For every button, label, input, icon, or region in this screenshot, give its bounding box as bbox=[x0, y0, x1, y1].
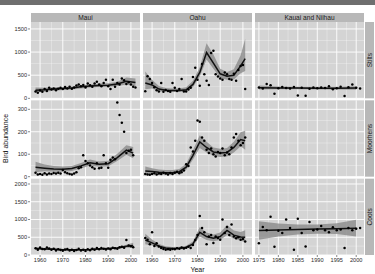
panel-stilts-oahu bbox=[143, 22, 252, 98]
data-point bbox=[116, 101, 119, 104]
data-point bbox=[343, 247, 346, 250]
x-axis-tick-label: 2000 bbox=[237, 257, 249, 263]
data-point bbox=[89, 84, 92, 87]
panel-stilts-maui bbox=[31, 22, 140, 98]
column-strip-label-oahu: Oahu bbox=[189, 14, 205, 21]
data-point bbox=[258, 242, 261, 245]
data-point bbox=[164, 248, 167, 251]
data-point bbox=[105, 248, 108, 251]
data-point bbox=[149, 174, 152, 177]
data-point bbox=[155, 173, 158, 176]
data-point bbox=[144, 237, 147, 240]
data-point bbox=[43, 172, 46, 175]
x-axis-tick-label: 1980 bbox=[79, 257, 91, 263]
panel-stilts-kauai-and-niihau bbox=[255, 22, 364, 98]
data-point bbox=[178, 248, 181, 251]
data-point bbox=[39, 173, 42, 176]
data-point bbox=[221, 218, 224, 221]
data-point bbox=[50, 248, 53, 251]
data-point bbox=[66, 248, 69, 251]
data-point bbox=[87, 82, 90, 85]
data-point bbox=[201, 63, 204, 66]
data-point bbox=[208, 152, 211, 155]
x-axis-tick-label: 1970 bbox=[169, 257, 181, 263]
column-strip-label-maui: Maui bbox=[78, 14, 93, 21]
data-point bbox=[73, 172, 76, 175]
data-point bbox=[64, 171, 67, 174]
data-point bbox=[269, 84, 272, 87]
data-point bbox=[183, 247, 186, 250]
data-point bbox=[297, 94, 300, 97]
data-point bbox=[237, 236, 240, 239]
data-point bbox=[265, 229, 268, 232]
data-point bbox=[304, 95, 307, 98]
data-point bbox=[187, 165, 190, 168]
data-point bbox=[224, 71, 227, 74]
data-point bbox=[281, 232, 284, 235]
data-point bbox=[355, 86, 358, 89]
data-point bbox=[221, 147, 224, 150]
data-point bbox=[55, 89, 58, 92]
data-point bbox=[304, 245, 307, 248]
data-point bbox=[91, 86, 94, 89]
data-point bbox=[217, 151, 220, 154]
data-point bbox=[160, 173, 163, 176]
data-point bbox=[102, 82, 105, 85]
data-point bbox=[55, 249, 58, 252]
data-point bbox=[80, 249, 83, 252]
data-point bbox=[132, 154, 135, 157]
data-point bbox=[160, 247, 163, 250]
data-point bbox=[80, 166, 83, 169]
data-point bbox=[91, 166, 94, 169]
data-point bbox=[68, 249, 71, 252]
data-point bbox=[269, 215, 272, 218]
data-point bbox=[73, 250, 76, 253]
data-point bbox=[82, 84, 85, 87]
data-point bbox=[34, 90, 37, 93]
data-point bbox=[87, 162, 90, 165]
data-point bbox=[237, 69, 240, 72]
data-point bbox=[324, 229, 327, 232]
data-point bbox=[114, 158, 117, 161]
y-axis-tick-label: 1000 bbox=[15, 216, 27, 222]
data-point bbox=[169, 172, 172, 175]
data-point bbox=[210, 52, 213, 55]
y-axis-tick-label: 2000 bbox=[15, 181, 27, 187]
data-point bbox=[84, 86, 87, 89]
data-point bbox=[39, 89, 42, 92]
y-axis-tick-label: 500 bbox=[18, 72, 27, 78]
data-point bbox=[339, 86, 342, 89]
data-point bbox=[289, 227, 292, 230]
data-point bbox=[114, 247, 117, 250]
data-point bbox=[109, 159, 112, 162]
data-point bbox=[158, 172, 161, 175]
data-point bbox=[300, 86, 303, 89]
data-point bbox=[230, 79, 233, 82]
row-strip-label-coots: Coots bbox=[366, 208, 373, 226]
data-point bbox=[105, 162, 108, 165]
x-axis-tick-label: 2000 bbox=[350, 257, 362, 263]
data-point bbox=[233, 235, 236, 238]
data-point bbox=[167, 90, 170, 93]
data-point bbox=[50, 88, 53, 91]
y-axis-tick-label: 100 bbox=[18, 151, 27, 157]
data-point bbox=[46, 246, 49, 249]
data-point bbox=[153, 245, 156, 248]
data-point bbox=[75, 171, 78, 174]
data-point bbox=[228, 234, 231, 237]
data-point bbox=[149, 243, 152, 246]
data-point bbox=[107, 85, 110, 88]
data-point bbox=[328, 231, 331, 234]
data-point bbox=[192, 244, 195, 247]
data-point bbox=[258, 86, 261, 89]
data-point bbox=[34, 171, 37, 174]
data-point bbox=[174, 171, 177, 174]
data-point bbox=[212, 49, 215, 52]
data-point bbox=[155, 242, 158, 245]
data-point bbox=[130, 83, 133, 86]
data-point bbox=[80, 85, 83, 88]
y-axis-tick-label: 300 bbox=[18, 106, 27, 112]
data-point bbox=[242, 142, 245, 145]
data-point bbox=[158, 245, 161, 248]
y-axis-tick-label: 500 bbox=[18, 234, 27, 240]
